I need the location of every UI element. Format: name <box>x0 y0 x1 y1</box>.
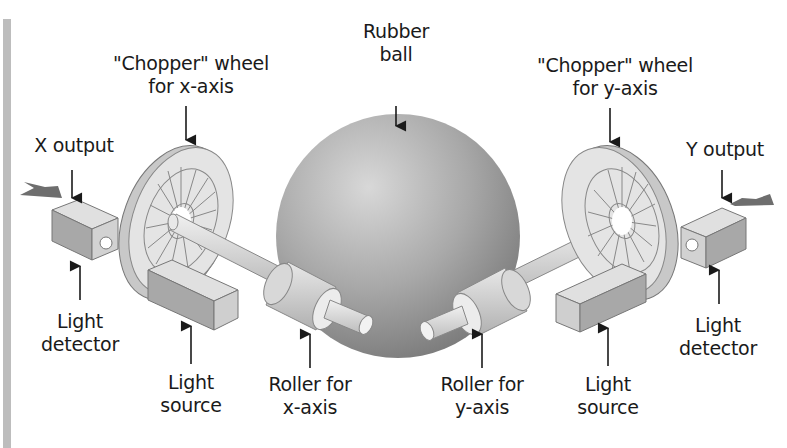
label-light-detector-right: Light detector <box>668 314 768 360</box>
label-rubber-ball: Rubber ball <box>346 20 446 66</box>
x-output-arrow-icon <box>20 182 62 198</box>
label-chopper-y: "Chopper" wheel for y-axis <box>520 54 710 100</box>
label-light-detector-left-line1: Light <box>30 310 130 333</box>
light-source-left <box>148 260 238 330</box>
label-light-source-right-line1: Light <box>558 373 658 396</box>
label-chopper-x: "Chopper" wheel for x-axis <box>96 52 286 98</box>
label-light-detector-right-line2: detector <box>668 337 768 360</box>
label-light-source-left-line2: source <box>141 394 241 417</box>
label-roller-x-line2: x-axis <box>255 396 365 419</box>
light-detector-right <box>681 208 746 268</box>
y-output-arrow-icon <box>730 194 774 206</box>
label-roller-x-line1: Roller for <box>255 373 365 396</box>
label-y-output-line1: Y output <box>675 138 775 161</box>
label-light-source-right-line2: source <box>558 396 658 419</box>
label-chopper-y-line2: for y-axis <box>520 77 710 100</box>
label-x-output-line1: X output <box>24 134 124 157</box>
label-y-output: Y output <box>675 138 775 161</box>
label-x-output: X output <box>24 134 124 157</box>
label-roller-y-line1: Roller for <box>427 373 537 396</box>
label-roller-y: Roller for y-axis <box>427 373 537 419</box>
label-light-detector-left: Light detector <box>30 310 130 356</box>
label-rubber-ball-line2: ball <box>346 43 446 66</box>
label-roller-x: Roller for x-axis <box>255 373 365 419</box>
label-light-detector-left-line2: detector <box>30 333 130 356</box>
label-light-source-left: Light source <box>141 371 241 417</box>
light-source-right <box>556 264 646 332</box>
label-roller-y-line2: y-axis <box>427 396 537 419</box>
label-light-detector-right-line1: Light <box>668 314 768 337</box>
label-light-source-right: Light source <box>558 373 658 419</box>
label-light-source-left-line1: Light <box>141 371 241 394</box>
light-detector-left <box>52 200 118 260</box>
label-chopper-x-line2: for x-axis <box>96 75 286 98</box>
label-chopper-y-line1: "Chopper" wheel <box>520 54 710 77</box>
label-rubber-ball-line1: Rubber <box>346 20 446 43</box>
label-chopper-x-line1: "Chopper" wheel <box>96 52 286 75</box>
